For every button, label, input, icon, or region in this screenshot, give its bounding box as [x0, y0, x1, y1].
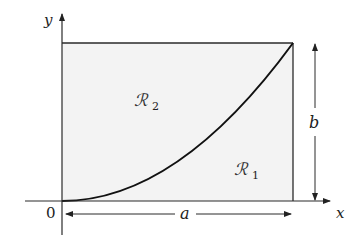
- x-axis-label: x: [336, 204, 345, 222]
- region-r1-symbol: ℛ: [234, 159, 249, 179]
- region-r2-subscript: 2: [152, 100, 159, 113]
- origin-label: 0: [46, 204, 56, 222]
- region-r2-symbol: ℛ: [134, 90, 149, 110]
- width-label-a: a: [180, 204, 190, 223]
- diagram-canvas: y x 0 a b ℛ 2 ℛ 1: [0, 0, 362, 246]
- height-label-b: b: [309, 113, 319, 132]
- region-r1-subscript: 1: [252, 169, 259, 182]
- y-axis-label: y: [43, 11, 53, 29]
